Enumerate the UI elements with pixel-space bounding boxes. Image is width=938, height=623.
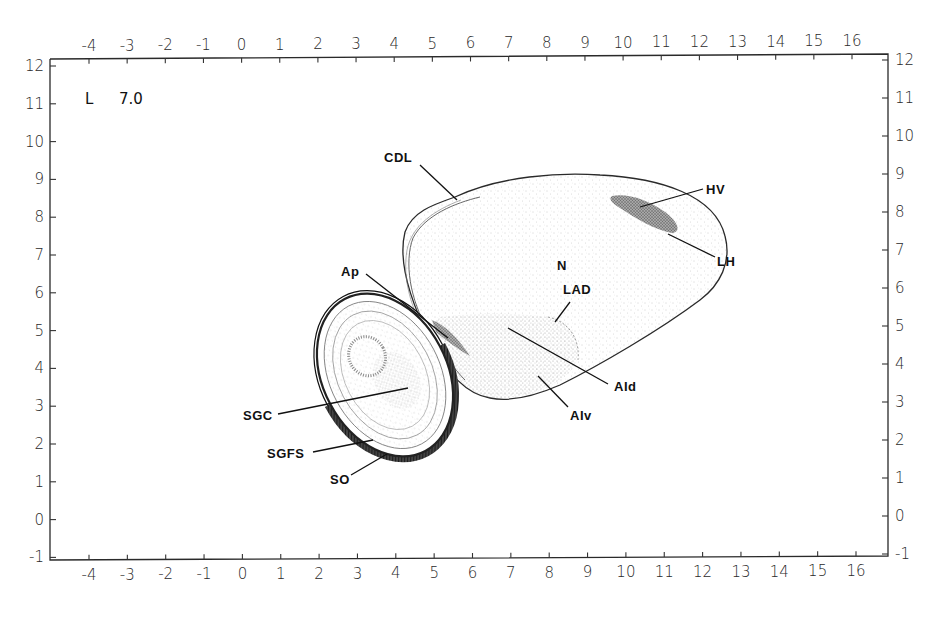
- y-tick-label-right: 7: [895, 241, 905, 259]
- y-tick-label-left: 8: [34, 208, 44, 226]
- x-tick-label-top: 16: [842, 32, 861, 50]
- x-tick-label-top: 2: [313, 35, 323, 53]
- y-tick-label-left: 2: [34, 435, 44, 453]
- x-tick-label-top: 1: [275, 36, 285, 54]
- x-tick-label-bottom: 5: [429, 564, 439, 582]
- y-tick-label-left: 10: [25, 133, 44, 151]
- atlas-plate: -4-3-2-1012345678910111213141516 -4-3-2-…: [0, 0, 938, 623]
- y-tick-label-left: 1: [34, 473, 44, 491]
- x-tick-label-top: -2: [158, 36, 173, 54]
- x-tick-label-bottom: 11: [655, 563, 674, 581]
- y-tick-label-left: 0: [34, 511, 44, 529]
- x-tick-label-top: 7: [504, 34, 514, 52]
- y-tick-label-left: 11: [25, 95, 44, 113]
- x-tick-label-bottom: 9: [583, 563, 593, 581]
- y-tick-label-right: 6: [895, 279, 905, 297]
- x-tick-label-bottom: 14: [770, 563, 789, 581]
- x-tick-label-top: 10: [614, 34, 633, 52]
- y-tick-label-left: 7: [34, 246, 44, 264]
- y-tick-label-right: 2: [895, 431, 905, 449]
- label-lad: LAD: [563, 282, 591, 297]
- x-tick-label-top: 5: [428, 35, 438, 53]
- y-tick-label-right: -1: [895, 545, 910, 563]
- x-tick-label-top: -3: [120, 37, 135, 55]
- x-tick-label-top: 6: [466, 34, 476, 52]
- x-tick-label-bottom: 7: [506, 564, 516, 582]
- y-tick-label-right: 12: [895, 51, 914, 69]
- label-aid: AId: [614, 379, 636, 394]
- x-tick-label-top: -4: [82, 37, 97, 55]
- y-tick-label-left: 6: [34, 284, 44, 302]
- y-tick-label-left: 12: [25, 57, 44, 75]
- x-tick-label-bottom: 15: [808, 562, 827, 580]
- plate-lateral-value: 7.0: [119, 90, 143, 108]
- x-tick-label-bottom: -3: [120, 566, 135, 584]
- x-tick-label-top: 13: [728, 33, 747, 51]
- x-tick-label-bottom: -1: [197, 565, 212, 583]
- x-tick-label-bottom: 3: [353, 565, 363, 583]
- x-axis-top: -4-3-2-1012345678910111213141516: [82, 32, 862, 64]
- y-tick-label-right: 10: [895, 127, 914, 145]
- x-tick-label-bottom: 1: [276, 565, 286, 583]
- x-tick-label-bottom: 13: [731, 563, 750, 581]
- x-tick-label-top: 4: [389, 35, 399, 53]
- y-tick-label-right: 8: [895, 203, 905, 221]
- y-axis-left: 1211109876543210-1: [25, 57, 56, 566]
- x-tick-label-top: 9: [580, 34, 590, 52]
- label-n: N: [557, 258, 567, 273]
- label-cdl: CDL: [384, 150, 412, 165]
- plate-lateral-label: L: [85, 90, 94, 108]
- label-aiv: AIv: [570, 408, 592, 423]
- x-tick-label-top: 3: [351, 35, 361, 53]
- y-tick-label-left: -1: [29, 548, 44, 566]
- y-tick-label-left: 4: [34, 359, 44, 377]
- y-tick-label-right: 9: [895, 165, 905, 183]
- x-tick-label-bottom: 8: [544, 564, 554, 582]
- label-sgc: SGC: [243, 408, 273, 423]
- x-tick-label-top: 15: [804, 32, 823, 50]
- x-tick-label-top: -1: [196, 36, 211, 54]
- x-tick-label-bottom: 12: [693, 563, 712, 581]
- x-tick-label-bottom: 16: [846, 562, 865, 580]
- y-tick-label-right: 0: [895, 507, 905, 525]
- label-hv: HV: [706, 182, 725, 197]
- x-tick-label-bottom: 2: [314, 565, 324, 583]
- x-tick-label-bottom: 0: [238, 565, 248, 583]
- x-tick-label-bottom: -4: [82, 566, 97, 584]
- y-tick-label-left: 5: [34, 322, 44, 340]
- label-lh: LH: [717, 254, 735, 269]
- x-tick-label-bottom: 4: [391, 564, 401, 582]
- y-tick-label-left: 9: [34, 170, 44, 188]
- x-tick-label-top: 14: [766, 33, 785, 51]
- x-tick-label-top: 12: [690, 33, 709, 51]
- y-tick-label-right: 4: [895, 355, 905, 373]
- label-so: SO: [330, 472, 350, 487]
- x-tick-label-bottom: 6: [468, 564, 478, 582]
- y-tick-label-right: 3: [895, 393, 905, 411]
- x-tick-label-top: 8: [542, 34, 552, 52]
- x-tick-label-bottom: -2: [158, 565, 173, 583]
- x-tick-label-top: 11: [652, 33, 671, 51]
- label-ap: Ap: [341, 264, 359, 279]
- y-tick-label-right: 11: [895, 89, 914, 107]
- y-tick-label-left: 3: [34, 397, 44, 415]
- label-sgfs: SGFS: [267, 446, 304, 461]
- y-tick-label-right: 1: [895, 469, 905, 487]
- x-tick-label-bottom: 10: [616, 563, 635, 581]
- y-tick-label-right: 5: [895, 317, 905, 335]
- y-axis-right: 1211109876543210-1: [882, 51, 914, 563]
- x-tick-label-top: 0: [237, 36, 247, 54]
